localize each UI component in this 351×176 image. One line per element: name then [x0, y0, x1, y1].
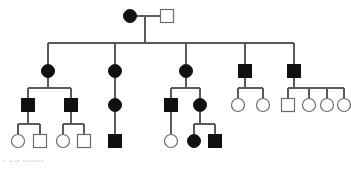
female-unaffected-symbol [257, 99, 270, 112]
caption-strip: Ped chart [0, 160, 351, 176]
caption-text: Ped chart [3, 160, 43, 164]
female-unaffected-symbol [232, 99, 245, 112]
female-affected-symbol [42, 65, 55, 78]
male-affected-symbol [288, 65, 301, 78]
male-affected-symbol [209, 135, 222, 148]
male-affected-symbol [65, 99, 78, 112]
male-unaffected-symbol [282, 99, 295, 112]
male-affected-symbol [22, 99, 35, 112]
male-affected-symbol [239, 65, 252, 78]
female-unaffected-symbol [57, 135, 70, 148]
female-unaffected-symbol [303, 99, 316, 112]
male-unaffected-symbol [161, 10, 174, 23]
male-unaffected-symbol [34, 135, 47, 148]
pedigree-chart: Ped chart [0, 0, 351, 176]
female-unaffected-symbol [321, 99, 334, 112]
female-affected-symbol [109, 99, 122, 112]
male-affected-symbol [109, 135, 122, 148]
female-unaffected-symbol [338, 99, 351, 112]
female-affected-symbol [188, 135, 201, 148]
female-affected-symbol [180, 65, 193, 78]
female-unaffected-symbol [165, 135, 178, 148]
male-unaffected-symbol [78, 135, 91, 148]
female-affected-symbol [194, 99, 207, 112]
female-affected-symbol [109, 65, 122, 78]
individual-symbols [12, 10, 351, 148]
female-unaffected-symbol [12, 135, 25, 148]
female-affected-symbol [124, 10, 137, 23]
pedigree-canvas [0, 0, 351, 176]
male-affected-symbol [165, 99, 178, 112]
